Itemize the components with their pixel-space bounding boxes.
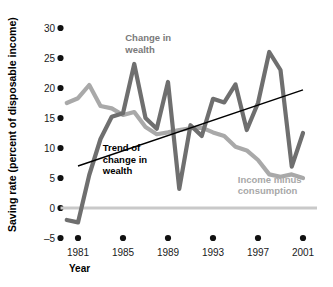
y-tick-label: 30 xyxy=(44,23,56,34)
x-tick-dot xyxy=(210,235,216,241)
annotation-income-minus-consumption: Income minusconsumption xyxy=(238,174,302,197)
x-tick-dot xyxy=(120,235,126,241)
y-tick-dot xyxy=(57,55,63,61)
x-axis-title: Year xyxy=(69,263,90,274)
x-tick-label: 1985 xyxy=(112,247,135,258)
chart-container: Saving rate (percent of disposable incom… xyxy=(0,0,333,287)
annotation-line: wealth xyxy=(124,44,155,55)
y-tick-dot xyxy=(57,145,63,151)
annotation-line: wealth xyxy=(102,165,133,176)
y-tick-label: 5 xyxy=(49,173,55,184)
y-tick-label: –5 xyxy=(44,233,56,244)
annotation-line: Trend of xyxy=(103,142,141,153)
x-tick-dot xyxy=(255,235,261,241)
y-tick-dot xyxy=(57,85,63,91)
annotation-line: Income minus xyxy=(238,174,302,185)
x-tick-label: 1989 xyxy=(157,247,180,258)
x-tick-label: 1981 xyxy=(67,247,90,258)
saving-rate-line-chart: Saving rate (percent of disposable incom… xyxy=(0,0,333,287)
annotation-line: Change in xyxy=(125,32,171,43)
y-tick-label: 0 xyxy=(49,203,55,214)
y-tick-label: 10 xyxy=(44,143,56,154)
x-tick-dot xyxy=(75,235,81,241)
x-tick-dot xyxy=(165,235,171,241)
y-tick-label: 25 xyxy=(44,53,56,64)
y-tick-dot xyxy=(57,115,63,121)
x-tick-label: 1997 xyxy=(247,247,270,258)
y-tick-dot xyxy=(57,235,63,241)
x-tick-label: 1993 xyxy=(202,247,225,258)
x-tick-dot xyxy=(300,235,306,241)
annotation-line: consumption xyxy=(238,185,298,196)
y-tick-label: 15 xyxy=(44,113,56,124)
y-tick-dot xyxy=(57,25,63,31)
x-tick-label: 2001 xyxy=(292,247,315,258)
y-tick-dot xyxy=(57,175,63,181)
y-tick-label: 20 xyxy=(44,83,56,94)
annotation-line: change in xyxy=(103,154,148,165)
y-axis-title: Saving rate (percent of disposable incom… xyxy=(6,17,18,232)
